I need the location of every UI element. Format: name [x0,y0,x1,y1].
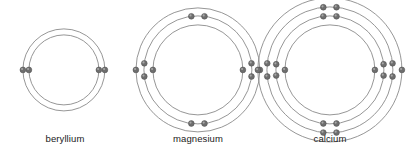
atom-svg-calcium [252,0,408,148]
atom-svg-beryllium [17,23,111,117]
electron-dot [282,67,288,73]
electron-dot [189,121,195,127]
electron-shell-ring [276,16,384,124]
atom-label-beryllium: beryllium [0,133,130,144]
atom-label-calcium: calcium [265,133,395,144]
electron-dot [399,67,405,73]
electron-dot [255,67,261,73]
electron-dot [334,14,340,20]
electron-shell-ring [153,25,243,115]
electron-dot [26,67,32,73]
electron-dot [390,61,396,67]
electron-shell-ring [144,16,252,124]
electron-dot [372,67,378,73]
electron-shell-ring [285,25,375,115]
electron-shell-diagram-figure: berylliummagnesiumcalcium [0,0,409,161]
electron-dot [381,73,387,79]
atom-diagram-magnesium [130,2,266,138]
electron-dot [273,61,279,67]
electron-dot [202,121,208,127]
electron-dot [20,67,26,73]
atom-diagram-calcium [252,0,408,148]
electron-shell-ring [258,0,402,142]
atom-label-magnesium: magnesium [133,133,263,144]
electron-dot [202,13,208,19]
atom-diagram-beryllium [17,23,111,117]
electron-dot [321,14,327,20]
electron-dot [264,74,270,80]
electron-dot [96,67,102,73]
electron-dot [334,4,340,10]
electron-dot [240,67,246,73]
electron-dot [381,61,387,67]
electron-dot [150,67,156,73]
electron-dot [273,73,279,79]
electron-dot [390,74,396,80]
electron-dot [264,61,270,67]
electron-dot [102,67,108,73]
electron-dot [189,13,195,19]
electron-dot [141,74,147,80]
electron-dot [321,121,327,127]
atom-svg-magnesium [130,2,266,138]
electron-dot [133,67,139,73]
electron-dot [141,61,147,67]
electron-dot [334,121,340,127]
electron-dot [321,4,327,10]
electron-shell-ring [29,35,99,105]
electron-shell-ring [23,29,105,111]
